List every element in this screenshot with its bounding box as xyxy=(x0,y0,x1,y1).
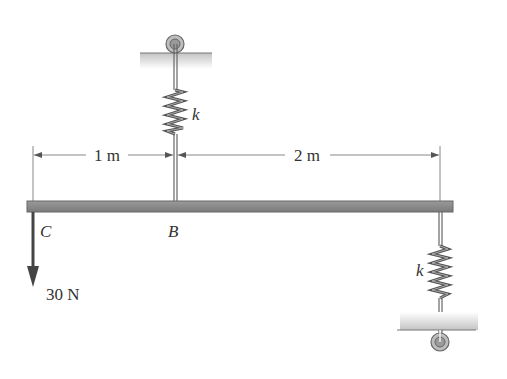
top-ground-support xyxy=(140,53,212,69)
load-label: 30 N xyxy=(46,285,80,304)
bottom-spring-label: k xyxy=(416,261,424,280)
beam xyxy=(27,201,453,212)
point-label-b: B xyxy=(168,222,179,241)
diagram-canvas: k 1 m 2 m C B 30 N k xyxy=(0,0,507,379)
point-label-c: C xyxy=(40,222,52,241)
dimension-label-right: 2 m xyxy=(294,146,320,165)
load-arrow-icon xyxy=(27,212,39,287)
top-pin-icon xyxy=(166,35,184,53)
top-spring-label: k xyxy=(192,105,200,124)
dimension-label-left: 1 m xyxy=(94,146,120,165)
bottom-pin-icon xyxy=(431,330,449,351)
bottom-ground-support xyxy=(397,312,478,330)
